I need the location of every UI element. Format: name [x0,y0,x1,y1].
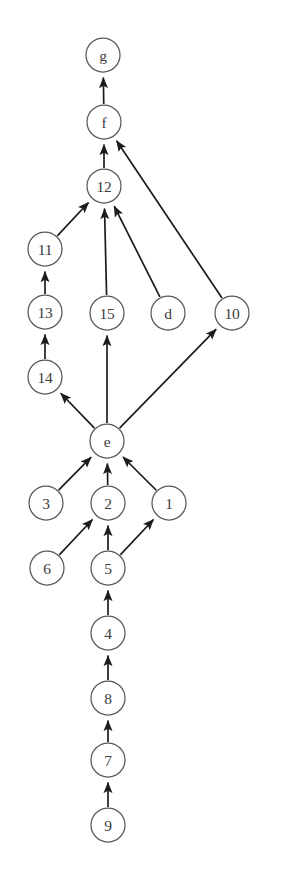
graph-node-label-d: d [164,305,172,322]
graph-node-label-15: 15 [100,305,115,322]
graph-node-8[interactable]: 8 [91,681,125,715]
graph-node-d[interactable]: d [151,296,185,330]
graph-node-3[interactable]: 3 [29,486,63,520]
graph-edge-d-to-12 [114,206,160,297]
graph-node-e[interactable]: e [90,424,124,458]
graph-node-label-1: 1 [165,495,172,512]
graph-edge-e-to-10 [120,329,217,428]
graph-node-label-5: 5 [104,560,112,577]
graph-node-f[interactable]: f [87,105,121,139]
graph-node-13[interactable]: 13 [28,295,62,329]
edge-layer [45,78,222,807]
graph-node-g[interactable]: g [86,38,120,72]
graph-node-label-e: e [104,433,111,450]
graph-node-9[interactable]: 9 [91,808,125,842]
graph-edge-1-to-e [123,457,156,490]
graph-node-label-8: 8 [104,690,112,707]
graph-node-label-10: 10 [225,305,240,322]
graph-node-11[interactable]: 11 [28,232,62,266]
graph-node-label-14: 14 [38,369,53,386]
graph-node-1[interactable]: 1 [152,486,186,520]
graph-svg: gf12111315d1014e321654879 [0,0,284,872]
graph-node-label-3: 3 [42,495,50,512]
graph-canvas: gf12111315d1014e321654879 [0,0,284,872]
graph-node-label-6: 6 [43,560,51,577]
graph-node-14[interactable]: 14 [28,360,62,394]
graph-node-label-4: 4 [104,625,112,642]
graph-edge-6-to-2 [59,519,92,554]
graph-node-label-2: 2 [104,495,111,512]
graph-node-12[interactable]: 12 [87,169,121,203]
graph-node-2[interactable]: 2 [91,486,125,520]
graph-edge-e-to-14 [61,393,95,428]
graph-node-label-9: 9 [104,817,112,834]
graph-node-6[interactable]: 6 [30,551,64,585]
graph-node-label-11: 11 [38,241,52,258]
graph-edge-11-to-12 [57,203,88,236]
graph-node-7[interactable]: 7 [91,743,125,777]
graph-node-label-7: 7 [104,752,112,769]
graph-edge-10-to-f [117,141,222,298]
graph-edge-3-to-e [59,457,92,490]
graph-edge-15-to-12 [105,209,107,295]
graph-node-4[interactable]: 4 [91,616,125,650]
graph-node-5[interactable]: 5 [91,551,125,585]
graph-node-label-g: g [99,47,107,64]
graph-node-label-12: 12 [97,178,112,195]
graph-node-10[interactable]: 10 [215,296,249,330]
graph-node-label-13: 13 [38,304,53,321]
graph-node-15[interactable]: 15 [90,296,124,330]
node-layer: gf12111315d1014e321654879 [28,38,249,842]
graph-edge-5-to-1 [120,519,153,554]
